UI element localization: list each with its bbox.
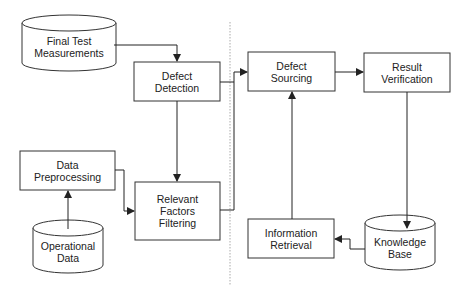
label-line: Data xyxy=(56,159,78,171)
label-line: Final Test xyxy=(47,35,92,47)
label-line: Operational xyxy=(41,240,95,252)
edge-preprocessing-to-relevant-factors xyxy=(115,170,134,211)
information-retrieval-label: Information Retrieval xyxy=(248,219,334,258)
label-line: Verification xyxy=(381,73,432,85)
relevant-factors-filtering-label: Relevant Factors Filtering xyxy=(135,182,220,240)
data-preprocessing-label: Data Preprocessing xyxy=(20,151,115,190)
label-line: Preprocessing xyxy=(34,171,101,183)
label-line: Sourcing xyxy=(271,72,312,84)
label-line: Factors xyxy=(160,205,195,217)
edge-final-test-to-defect-detection xyxy=(114,45,177,61)
label-line: Retrieval xyxy=(270,239,311,251)
edge-defect-detection-to-sourcing xyxy=(220,72,247,82)
defect-detection-label: Defect Detection xyxy=(134,62,220,101)
knowledge-base-label: Knowledge Base xyxy=(365,230,435,266)
edge-relevant-factors-to-sourcing xyxy=(220,82,234,210)
label-line: Base xyxy=(388,248,412,260)
edge-knowledge-base-to-retrieval xyxy=(335,239,365,249)
label-line: Detection xyxy=(155,82,199,94)
label-line: Result xyxy=(392,61,422,73)
result-verification-label: Result Verification xyxy=(364,53,450,92)
final-test-measurements-label: Final Test Measurements xyxy=(22,30,116,64)
label-line: Knowledge xyxy=(374,236,426,248)
label-line: Defect xyxy=(162,70,192,82)
label-line: Relevant xyxy=(157,193,198,205)
defect-sourcing-label: Defect Sourcing xyxy=(248,52,335,91)
label-line: Defect xyxy=(276,60,306,72)
operational-data-label: Operational Data xyxy=(33,235,103,269)
label-line: Data xyxy=(57,252,79,264)
label-line: Information xyxy=(265,227,318,239)
label-line: Filtering xyxy=(159,217,196,229)
label-line: Measurements xyxy=(34,47,103,59)
